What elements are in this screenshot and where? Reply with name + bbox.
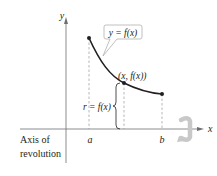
- radius-label: r = f(x): [83, 102, 111, 113]
- x-axis-arrow-icon: [197, 127, 204, 131]
- function-curve: [89, 38, 162, 94]
- point-label: (x, f(x)): [118, 71, 146, 82]
- x-axis-label: x: [207, 123, 213, 134]
- y-axis: y: [59, 10, 68, 163]
- axis-of-revolution-line2: revolution: [20, 148, 61, 159]
- y-axis-label: y: [59, 10, 65, 21]
- point-xfx: [122, 81, 126, 85]
- tick-label-b: b: [160, 134, 165, 145]
- rotation-arrow-icon: [177, 118, 190, 142]
- y-axis-arrow-icon: [64, 17, 68, 24]
- tick-label-a: a: [88, 134, 93, 145]
- point-start: [87, 36, 91, 40]
- x-axis: x: [20, 123, 213, 134]
- surface-of-revolution-diagram: y x y = f(x) (x, f(x)) r = f(x) a b Axis…: [0, 0, 217, 176]
- radius-brace: [113, 83, 120, 129]
- point-end: [160, 92, 164, 96]
- callout-bubble: y = f(x): [103, 25, 142, 56]
- axis-of-revolution-line1: Axis of: [20, 134, 50, 145]
- callout-text: y = f(x): [108, 28, 138, 39]
